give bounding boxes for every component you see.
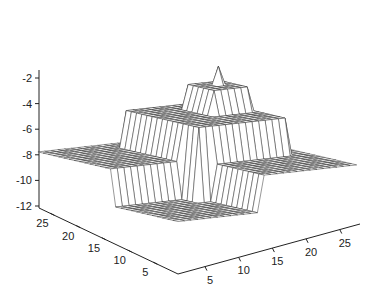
z-tick-label: -2 xyxy=(22,72,32,84)
z-tick-label: -10 xyxy=(16,174,32,186)
tick-mark xyxy=(153,262,157,264)
y-tick-label: 10 xyxy=(114,254,126,266)
z-tick-label: -6 xyxy=(22,123,32,135)
x-tick-label: 10 xyxy=(238,264,250,276)
x-tick-label: 15 xyxy=(271,255,283,267)
tick-mark xyxy=(102,238,106,240)
tick-mark xyxy=(128,250,132,252)
z-tick-label: -8 xyxy=(22,149,32,161)
x-tick-label: 5 xyxy=(207,274,213,286)
tick-mark xyxy=(205,267,207,271)
z-tick-label: -4 xyxy=(22,98,32,110)
y-tick-label: 20 xyxy=(62,230,74,242)
tick-mark xyxy=(239,257,241,261)
x-tick-label: 20 xyxy=(305,246,317,258)
x-tick-label: 25 xyxy=(339,237,351,249)
tick-mark xyxy=(76,226,80,228)
tick-mark xyxy=(306,239,308,243)
z-tick-label: -12 xyxy=(16,200,32,212)
mesh-surface xyxy=(38,66,357,221)
y-tick-label: 25 xyxy=(36,217,48,229)
y-tick-label: 15 xyxy=(88,242,100,254)
tick-mark xyxy=(50,213,54,215)
surface-mesh-plot: -2-4-6-8-10-12510152025510152025 xyxy=(0,0,378,296)
tick-mark xyxy=(340,230,342,234)
y-tick-label: 5 xyxy=(142,266,148,278)
tick-mark xyxy=(272,248,274,252)
